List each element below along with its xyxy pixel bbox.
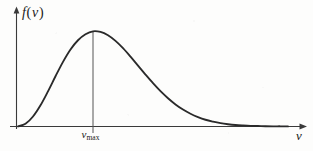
tick-label-subscript: max <box>86 133 99 142</box>
x-axis-tick-label-vmax: vmax <box>82 129 100 140</box>
y-axis-label-close-paren: ) <box>38 5 44 20</box>
x-axis-label: v <box>296 129 302 142</box>
y-axis-arrowhead <box>14 7 20 14</box>
distribution-curve <box>18 31 288 126</box>
distribution-figure: f(v) v vmax <box>0 0 313 151</box>
y-axis <box>14 7 20 130</box>
y-axis-label: f(v) <box>22 6 44 20</box>
plot-canvas <box>0 0 313 151</box>
